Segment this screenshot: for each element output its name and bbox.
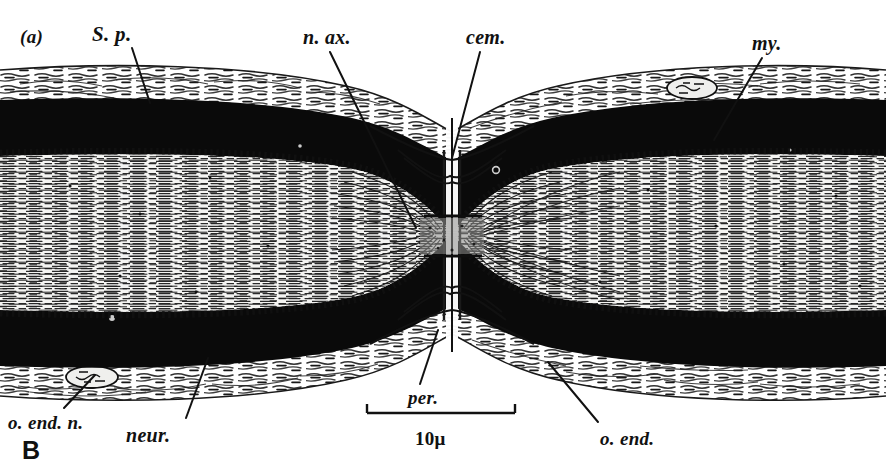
label-per: per. <box>408 387 438 409</box>
figure-panel: (a) S. p. n. ax. cem. my. o. end. n. neu… <box>0 0 886 476</box>
label-o-end-n: o. end. n. <box>8 412 83 434</box>
scale-bar-label: 10μ <box>415 428 446 450</box>
label-neur: neur. <box>126 424 170 447</box>
label-o-end: o. end. <box>600 428 654 450</box>
label-cem: cem. <box>466 26 506 49</box>
plate-letter-b: B <box>22 436 40 465</box>
nerve-fibre-illustration <box>0 0 886 476</box>
label-n-ax: n. ax. <box>303 26 351 49</box>
panel-letter-a: (a) <box>20 26 43 48</box>
label-my: my. <box>752 32 782 55</box>
label-s-p: S. p. <box>92 22 131 47</box>
schwann-nucleus-upper-right <box>667 77 717 99</box>
